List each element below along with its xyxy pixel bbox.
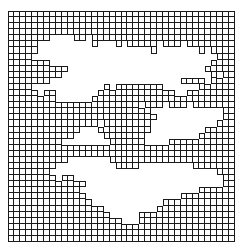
grid-mask-figure xyxy=(8,11,235,242)
grid-cell xyxy=(229,236,235,242)
